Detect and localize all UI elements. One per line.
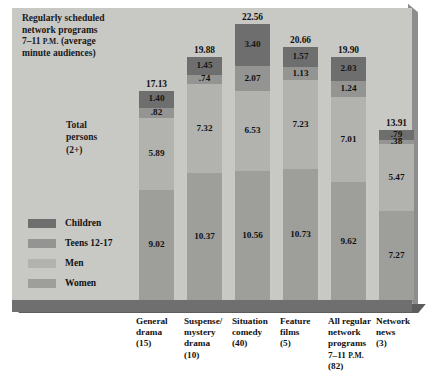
x-axis-label-2: Suspense/mysterydrama(10) [184, 316, 232, 361]
bar-segment-value: 5.89 [148, 149, 164, 158]
bar-segment-value: 1.45 [196, 61, 212, 70]
bar-segment-value: 1.57 [292, 52, 308, 61]
bar-segment-children: 1.57 [283, 47, 318, 66]
bar-segment-women: 10.73 [283, 169, 318, 300]
bar-segment-men: 5.89 [139, 118, 174, 190]
x-axis-label-1: Generaldrama(15) [136, 316, 184, 350]
bar-segment-value: 9.62 [340, 237, 356, 246]
x-axis-label-line: (5) [280, 338, 328, 349]
bar-segment-value: 2.07 [244, 74, 260, 83]
bar-segment-teens-12-17: .74 [187, 75, 222, 84]
bar-3: 3.402.076.5310.56 [235, 24, 270, 300]
x-axis-label-line: (82) [328, 361, 376, 372]
bar-total-label: 22.56 [235, 13, 270, 22]
x-axis-label-line: General [136, 316, 184, 327]
bar-segment-children: 3.40 [235, 24, 270, 66]
bar-segment-children: 1.40 [139, 91, 174, 108]
x-axis-label-line: (40) [232, 338, 280, 349]
bar-segment-children: 1.45 [187, 57, 222, 75]
bar-segment-men: 7.01 [331, 97, 366, 183]
bar-segment-value: .74 [199, 74, 210, 83]
bar-total-label: 19.88 [187, 46, 222, 55]
bar-segment-value: 7.27 [388, 251, 404, 260]
x-axis-label-line: Situation [232, 316, 280, 327]
x-axis-label-line: news [376, 327, 424, 338]
bar-segment-women: 10.56 [235, 171, 270, 300]
x-axis-label-4: Featurefilms(5) [280, 316, 328, 350]
x-axis-label-line: Suspense/ [184, 316, 232, 327]
x-axis-label-line: Network [376, 316, 424, 327]
bar-segment-value: 5.47 [388, 173, 404, 182]
bar-4: 1.571.137.2310.73 [283, 47, 318, 300]
bar-segment-value: 3.40 [244, 40, 260, 49]
x-axis-label-line: All regular [328, 316, 376, 327]
bar-total-label: 17.13 [139, 80, 174, 89]
bar-segment-women: 10.37 [187, 173, 222, 300]
x-axis-label-3: Situationcomedy(40) [232, 316, 280, 350]
bar-segment-value: .82 [151, 108, 162, 117]
bar-segment-men: 6.53 [235, 91, 270, 171]
bar-segment-value: 10.56 [242, 231, 263, 240]
x-axis-label-line: drama [184, 338, 232, 349]
bar-segment-value: 7.23 [292, 120, 308, 129]
bar-segment-women: 7.27 [379, 211, 414, 300]
x-axis-label-line: (3) [376, 338, 424, 349]
bar-total-label: 19.90 [331, 46, 366, 55]
bar-segment-teens-12-17: .82 [139, 108, 174, 118]
bar-segment-women: 9.62 [331, 182, 366, 300]
bar-1: 1.40.825.899.02 [139, 91, 174, 300]
bar-segment-value: 7.32 [196, 124, 212, 133]
bar-6: .79.385.477.27 [379, 130, 414, 300]
x-axis-label-line: 7–11 P.M. [328, 350, 376, 361]
bar-segment-value: 1.40 [148, 94, 164, 103]
bar-segment-value: 10.37 [194, 232, 215, 241]
bar-2: 1.45.747.3210.37 [187, 57, 222, 300]
x-axis-label-line: (15) [136, 338, 184, 349]
bar-total-label: 20.66 [283, 36, 318, 45]
bar-segment-teens-12-17: 2.07 [235, 66, 270, 91]
bar-segment-value: 6.53 [244, 126, 260, 135]
bar-segment-value: 2.03 [340, 64, 356, 73]
x-axis-label-line: comedy [232, 327, 280, 338]
bar-segment-teens-12-17: 1.24 [331, 81, 366, 96]
x-axis-label-line: films [280, 327, 328, 338]
bar-segment-value: 9.02 [148, 240, 164, 249]
bar-segment-value: 7.01 [340, 135, 356, 144]
bar-segment-men: 5.47 [379, 144, 414, 211]
x-axis-label-line: drama [136, 327, 184, 338]
bar-segment-value: 10.73 [290, 230, 311, 239]
x-axis-label-5: All regularnetworkprograms7–11 P.M.(82) [328, 316, 376, 372]
bar-segment-value: 1.13 [292, 69, 308, 78]
x-axis-label-6: Networknews(3) [376, 316, 424, 350]
x-axis-label-line: mystery [184, 327, 232, 338]
stacked-bar-chart-figure: Regularly scheduled network programs 7–1… [0, 0, 428, 377]
x-axis-label-smallcaps: P.M. [348, 351, 364, 360]
bar-segment-children: 2.03 [331, 57, 366, 82]
bar-segment-teens-12-17: 1.13 [283, 67, 318, 81]
bar-segment-men: 7.23 [283, 80, 318, 168]
bar-segment-men: 7.32 [187, 84, 222, 174]
x-axis-label-line: network [328, 327, 376, 338]
x-axis-labels: Generaldrama(15)Suspense/mysterydrama(10… [0, 316, 428, 377]
x-axis-label-line: Feature [280, 316, 328, 327]
x-axis-label-line: programs [328, 338, 376, 349]
x-axis-label-line: (10) [184, 350, 232, 361]
bar-5: 2.031.247.019.62 [331, 57, 366, 300]
bar-segment-women: 9.02 [139, 190, 174, 300]
bar-total-label: 13.91 [379, 119, 414, 128]
bar-segment-value: 1.24 [340, 84, 356, 93]
